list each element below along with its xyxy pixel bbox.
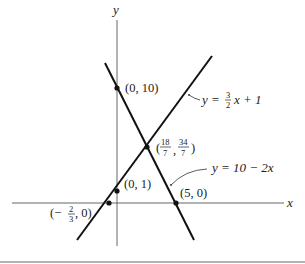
svg-text:2: 2 [226, 100, 230, 110]
svg-text:x + 1: x + 1 [233, 92, 262, 107]
svg-text:(: ( [156, 141, 160, 155]
svg-text:,: , [173, 143, 176, 157]
label-0-1: (0, 1) [124, 177, 151, 191]
svg-text:7: 7 [181, 148, 185, 158]
svg-text:y =: y = [200, 92, 220, 107]
svg-text:3: 3 [226, 90, 230, 100]
label-0-10: (0, 10) [125, 81, 158, 95]
x-axis-label: x [286, 195, 293, 210]
point-neg2-3-0 [106, 200, 111, 205]
equation-label-line2: y = 3 2 x + 1 [188, 90, 261, 110]
svg-text:2: 2 [69, 204, 73, 214]
point-0-1 [114, 188, 119, 193]
svg-text:): ) [191, 141, 195, 155]
svg-text:, 0): , 0) [75, 206, 92, 220]
svg-text:y = 10 − 2x: y = 10 − 2x [210, 160, 274, 175]
svg-text:7: 7 [163, 148, 167, 158]
svg-text:3: 3 [69, 214, 73, 224]
equation-label-line1: y = 10 − 2x [170, 160, 274, 186]
y-axis-label: y [111, 2, 119, 17]
svg-text:(−: (− [50, 206, 61, 220]
svg-text:18: 18 [161, 137, 170, 147]
point-intersection [144, 144, 149, 149]
point-5-0 [173, 200, 178, 205]
label-neg2-3-0: (− 2 3 , 0) [50, 204, 92, 224]
graph-canvas: x y (0, 10) (5, 0) (0, 1) (− 2 3 , 0) ( … [0, 0, 305, 264]
svg-text:34: 34 [179, 137, 188, 147]
label-5-0: (5, 0) [180, 186, 207, 200]
label-intersection: ( 18 7 , 34 7 ) [156, 137, 195, 158]
point-0-10 [114, 85, 119, 90]
